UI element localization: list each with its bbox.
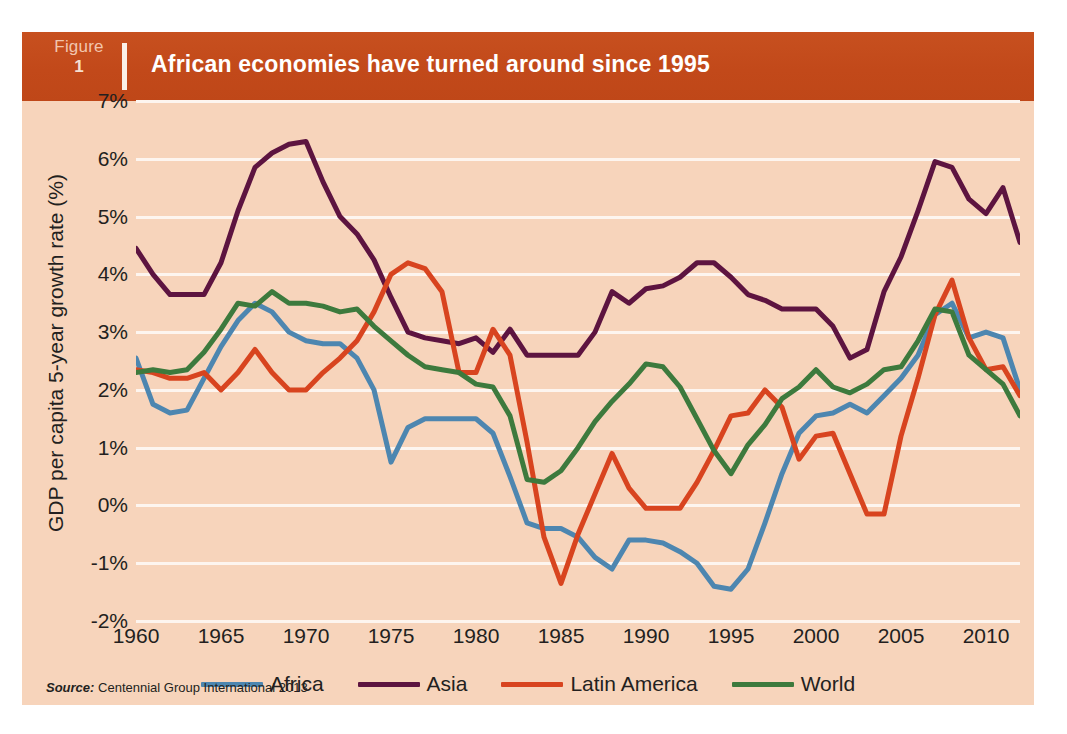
legend-item-asia[interactable]: Asia	[358, 672, 468, 696]
legend-swatch-icon	[501, 682, 563, 687]
x-axis-tick-label: 2010	[946, 624, 1026, 648]
x-axis-tick-label: 1975	[351, 624, 431, 648]
x-axis-tick-label: 2005	[861, 624, 941, 648]
y-axis-tick-label: -1%	[68, 551, 128, 575]
x-axis-tick-label: 1960	[96, 624, 176, 648]
y-axis-tick-label: 1%	[68, 436, 128, 460]
x-axis-tick-label: 1985	[521, 624, 601, 648]
figure-number-block: Figure 1	[42, 37, 116, 76]
y-axis-tick-label: 0%	[68, 493, 128, 517]
y-axis-tick-label: 7%	[68, 89, 128, 113]
legend-label: Asia	[427, 672, 468, 696]
y-axis-tick-label: 5%	[68, 205, 128, 229]
figure-title: African economies have turned around sin…	[151, 51, 710, 78]
source-prefix: Source:	[46, 680, 94, 695]
x-axis-tick-label: 1990	[606, 624, 686, 648]
chart-plot-area: GDP per capita 5-year growth rate (%) 7%…	[22, 101, 1034, 705]
series-line-asia	[136, 141, 1020, 358]
legend-swatch-icon	[732, 682, 794, 687]
chart-series-lines	[136, 101, 1020, 621]
figure-card: Figure 1 African economies have turned a…	[22, 32, 1034, 705]
legend-label: World	[801, 672, 855, 696]
x-axis-ticks: 1960196519701975198019851990199520002005…	[136, 621, 1020, 655]
x-axis-tick-label: 1980	[436, 624, 516, 648]
figure-word-label: Figure	[42, 37, 116, 57]
banner-divider	[122, 43, 127, 90]
x-axis-tick-label: 2000	[776, 624, 856, 648]
source-text: Centennial Group International 2013	[98, 680, 308, 695]
y-axis-tick-label: 2%	[68, 378, 128, 402]
source-note: Source: Centennial Group International 2…	[46, 680, 308, 695]
y-axis-tick-label: 4%	[68, 262, 128, 286]
x-axis-tick-label: 1965	[181, 624, 261, 648]
y-axis-tick-label: 3%	[68, 320, 128, 344]
y-axis-ticks: 7%6%5%4%3%2%1%0%-1%-2%	[62, 101, 128, 621]
figure-banner: Figure 1 African economies have turned a…	[22, 32, 1034, 101]
legend-label: Latin America	[570, 672, 697, 696]
series-line-world	[136, 292, 1020, 483]
legend-item-world[interactable]: World	[732, 672, 855, 696]
legend-item-latin-america[interactable]: Latin America	[501, 672, 697, 696]
y-axis-tick-label: 6%	[68, 147, 128, 171]
legend-swatch-icon	[358, 682, 420, 687]
x-axis-tick-label: 1995	[691, 624, 771, 648]
figure-number: 1	[42, 57, 116, 76]
x-axis-tick-label: 1970	[266, 624, 346, 648]
